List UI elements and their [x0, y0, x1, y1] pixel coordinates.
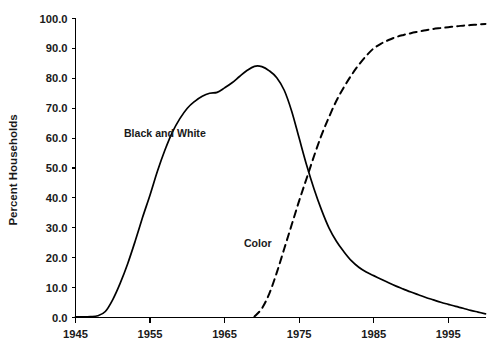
- y-tick-label: 60.0: [46, 132, 68, 144]
- series-line-black-and-white: [76, 66, 486, 317]
- line-chart: 0.010.020.030.040.050.060.070.080.090.01…: [0, 0, 500, 354]
- y-tick-label: 40.0: [46, 192, 68, 204]
- y-axis-tick-labels: 0.010.020.030.040.050.060.070.080.090.01…: [40, 13, 68, 324]
- y-tick-label: 90.0: [46, 42, 68, 54]
- series-annotations: Black and WhiteColor: [124, 127, 272, 250]
- chart-ticks: [72, 19, 449, 323]
- y-tick-label: 20.0: [46, 252, 68, 264]
- y-axis-title: Percent Households: [7, 114, 19, 225]
- y-tick-label: 10.0: [46, 282, 68, 294]
- chart-series: [76, 24, 486, 317]
- chart-axes: [76, 19, 486, 318]
- y-tick-label: 50.0: [46, 162, 68, 174]
- x-tick-label: 1965: [212, 328, 237, 340]
- series-label-color: Color: [244, 237, 272, 249]
- series-line-color: [254, 24, 485, 317]
- y-tick-label: 100.0: [40, 13, 68, 25]
- x-tick-label: 1985: [361, 328, 386, 340]
- x-tick-label: 1995: [436, 328, 461, 340]
- series-label-black-and-white: Black and White: [124, 127, 206, 139]
- x-tick-label: 1975: [287, 328, 312, 340]
- y-tick-label: 0.0: [52, 312, 68, 324]
- x-tick-label: 1955: [138, 328, 163, 340]
- chart-container: 0.010.020.030.040.050.060.070.080.090.01…: [0, 0, 500, 354]
- y-tick-label: 70.0: [46, 102, 68, 114]
- x-tick-label: 1945: [63, 328, 88, 340]
- x-axis-tick-labels: 194519551965197519851995: [63, 328, 461, 340]
- y-tick-label: 30.0: [46, 222, 68, 234]
- y-tick-label: 80.0: [46, 72, 68, 84]
